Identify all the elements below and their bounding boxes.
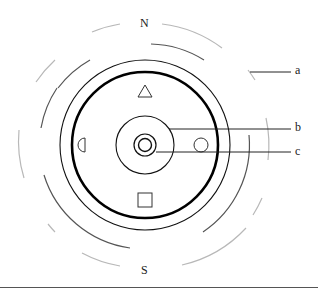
center-outer-circle	[134, 134, 156, 156]
triangle-marker	[138, 85, 152, 97]
center-inner-circle	[139, 139, 152, 152]
circle-marker	[194, 138, 208, 152]
callout-label-b: b	[295, 121, 301, 133]
concentric-ring-diagram	[0, 0, 318, 291]
thick-ring	[72, 72, 218, 218]
half-circle-marker	[78, 138, 85, 152]
south-label: S	[141, 264, 148, 276]
callout-label-c: c	[295, 145, 300, 157]
bottom-rule	[0, 287, 318, 288]
middle-circle	[116, 116, 174, 174]
square-marker	[138, 193, 152, 207]
north-label: N	[140, 17, 149, 29]
callout-label-a: a	[295, 64, 300, 76]
